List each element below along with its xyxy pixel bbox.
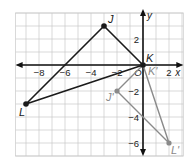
y-tick-label: −6 (128, 138, 139, 149)
y-tick-label: −4 (128, 112, 139, 123)
x-tick-label: −4 (86, 67, 97, 78)
y-axis-label: y (146, 10, 153, 21)
vertex-point-j (101, 23, 107, 29)
x-tick-label: 2 (166, 67, 171, 78)
grid-lines (16, 13, 184, 156)
vertex-label-k-prime: K' (148, 65, 158, 77)
vertex-label-l-prime: L' (171, 144, 180, 156)
vertex-label-k: K (146, 52, 154, 64)
vertex-point-j-prime (114, 88, 119, 93)
vertex-point-k (140, 62, 146, 68)
y-axis-up-arrow-icon (140, 9, 146, 16)
y-axis-down-arrow-icon (140, 149, 146, 156)
y-tick-label: −2 (128, 86, 139, 97)
coordinate-plane: xy −8−6−4−2O22−2−4−6 JKLK'J'L' (0, 0, 191, 161)
vertex-label-l: L (19, 106, 25, 118)
x-axis-left-arrow-icon (16, 62, 23, 68)
vertex-label-j-prime: J' (105, 91, 115, 103)
x-tick-label: −8 (34, 67, 45, 78)
x-axis-label: x (174, 67, 181, 78)
vertex-label-j: J (107, 13, 114, 25)
y-tick-label: 2 (134, 34, 139, 45)
